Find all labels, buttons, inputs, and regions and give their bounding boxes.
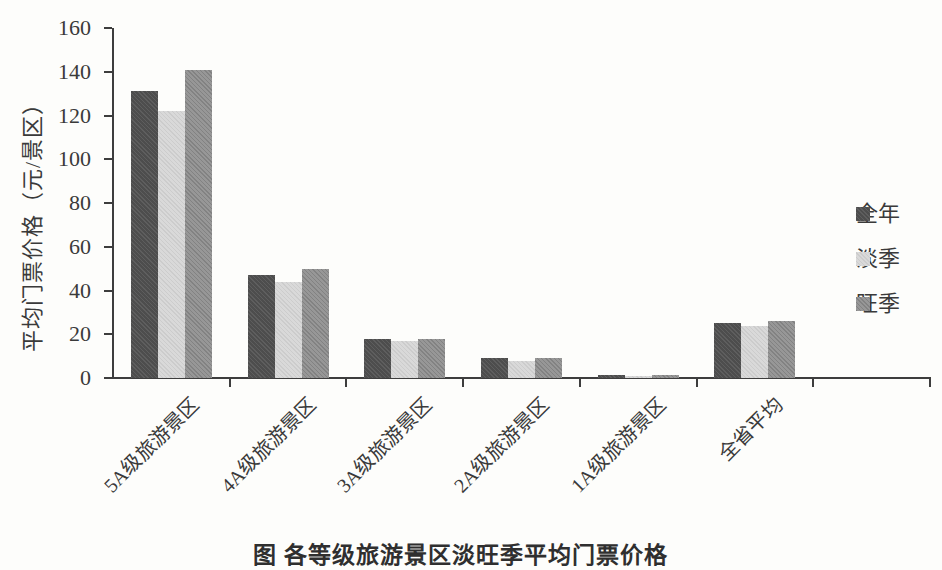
- bar-旺季-4A级旅游景区: [302, 269, 329, 378]
- y-tick-mark: [104, 202, 112, 204]
- bar-旺季-1A级旅游景区: [652, 375, 679, 378]
- x-category-label: 2A级旅游景区: [449, 393, 553, 497]
- y-tick-label: 40: [31, 280, 91, 302]
- bar-旺季-全省平均: [768, 321, 795, 378]
- x-tick-mark: [696, 378, 698, 387]
- y-tick-label: 60: [31, 236, 91, 258]
- bar-全年-2A级旅游景区: [481, 358, 508, 378]
- x-tick-mark: [345, 378, 347, 387]
- y-axis-title: 平均门票价格（元/景区）: [14, 92, 46, 352]
- bar-淡季-1A级旅游景区: [625, 376, 652, 378]
- y-tick-mark: [104, 246, 112, 248]
- y-tick-mark: [104, 27, 112, 29]
- y-tick-label: 100: [31, 148, 91, 170]
- legend-swatch-icon: [856, 207, 870, 221]
- bar-淡季-全省平均: [741, 326, 768, 379]
- y-tick-mark: [104, 71, 112, 73]
- legend-item: 旺季: [856, 292, 900, 316]
- y-tick-mark: [104, 290, 112, 292]
- x-tick-mark: [812, 378, 814, 387]
- bar-旺季-3A级旅游景区: [418, 339, 445, 378]
- clipped-caption: 图 各等级旅游景区淡旺季平均门票价格: [253, 536, 668, 570]
- bar-淡季-2A级旅游景区: [508, 361, 535, 379]
- bar-淡季-4A级旅游景区: [275, 282, 302, 378]
- x-category-label: 1A级旅游景区: [566, 393, 670, 497]
- bar-全年-3A级旅游景区: [364, 339, 391, 378]
- x-tick-mark: [929, 378, 931, 387]
- bar-全年-4A级旅游景区: [248, 275, 275, 378]
- bar-旺季-5A级旅游景区: [185, 70, 212, 378]
- legend-item: 全年: [856, 202, 900, 226]
- bar-全年-5A级旅游景区: [131, 91, 158, 378]
- bar-全年-全省平均: [714, 323, 741, 378]
- y-tick-mark: [104, 158, 112, 160]
- x-category-label: 3A级旅游景区: [333, 393, 437, 497]
- legend-item: 淡季: [856, 247, 900, 271]
- bar-旺季-2A级旅游景区: [535, 358, 562, 378]
- x-category-label: 4A级旅游景区: [216, 393, 320, 497]
- bar-全年-1A级旅游景区: [598, 375, 625, 378]
- y-tick-label: 140: [31, 61, 91, 83]
- y-tick-mark: [104, 333, 112, 335]
- bar-淡季-3A级旅游景区: [391, 341, 418, 378]
- x-tick-mark: [462, 378, 464, 387]
- x-category-label: 5A级旅游景区: [99, 393, 203, 497]
- x-tick-mark: [579, 378, 581, 387]
- y-tick-label: 20: [31, 323, 91, 345]
- x-tick-mark: [229, 378, 231, 387]
- legend-swatch-icon: [856, 252, 870, 266]
- x-category-label: 全省平均: [714, 393, 786, 465]
- y-tick-mark: [104, 115, 112, 117]
- y-tick-label: 160: [31, 17, 91, 39]
- bar-淡季-5A级旅游景区: [158, 111, 185, 378]
- chart-legend: 全年淡季旺季: [856, 202, 900, 337]
- y-tick-label: 80: [31, 192, 91, 214]
- y-tick-label: 120: [31, 105, 91, 127]
- y-tick-mark: [104, 377, 112, 379]
- y-tick-label: 0: [31, 367, 91, 389]
- legend-swatch-icon: [856, 297, 870, 311]
- y-axis-line: [112, 28, 114, 379]
